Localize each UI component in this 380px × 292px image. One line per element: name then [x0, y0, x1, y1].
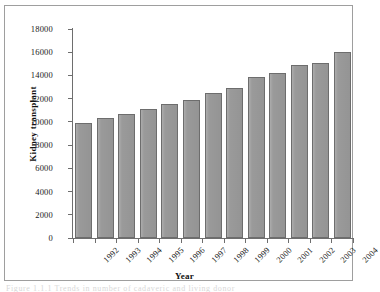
bar-2002 [291, 65, 308, 238]
x-axis-title: Year [5, 271, 364, 281]
x-axis-tick-mark [267, 239, 268, 243]
x-axis-tick-mark [159, 239, 160, 243]
y-axis-tick-label: 8000 [35, 140, 53, 150]
x-axis-tick-label: 2000 [274, 245, 294, 265]
bar-1994 [118, 114, 135, 238]
x-axis-tick-mark [116, 239, 117, 243]
y-axis-tick-label: 10000 [31, 117, 53, 127]
x-axis-tick-label: 2002 [317, 245, 337, 265]
bar-1997 [183, 100, 200, 238]
plot-area [73, 29, 353, 238]
y-axis-tick-label: 12000 [31, 94, 53, 104]
x-axis-tick-mark [245, 239, 246, 243]
x-axis-tick-label: 1999 [252, 245, 272, 265]
x-axis-tick-mark [202, 239, 203, 243]
x-axis-tick-label: 1993 [123, 245, 143, 265]
bar-1998 [205, 93, 222, 238]
bar-2003 [312, 63, 329, 238]
x-axis-tick-label: 1997 [209, 245, 229, 265]
x-axis-tick-mark [353, 239, 354, 243]
x-axis-tick-label: 1998 [231, 245, 251, 265]
bar-1996 [161, 104, 178, 238]
x-axis-tick-mark [331, 239, 332, 243]
y-axis-tick-label: 18000 [31, 24, 53, 34]
x-axis-tick-label: 1996 [188, 245, 208, 265]
bar-2004 [334, 52, 351, 238]
y-axis-tick-label: 4000 [35, 187, 53, 197]
bar-1993 [97, 118, 114, 238]
x-axis-tick-mark [224, 239, 225, 243]
bar-1992 [75, 123, 92, 238]
x-axis-tick-mark [181, 239, 182, 243]
x-axis-tick-label: 1992 [101, 245, 121, 265]
bar-1999 [226, 88, 243, 238]
y-axis-tick-label: 6000 [35, 163, 53, 173]
x-axis-tick-mark [95, 239, 96, 243]
y-axis-tick-label: 0 [49, 233, 53, 243]
x-axis-tick-mark [288, 239, 289, 243]
x-axis-tick-label: 2003 [338, 245, 358, 265]
bar-2001 [269, 73, 286, 238]
figure-frame: Kidney transplant 0200040006000800010000… [4, 5, 353, 281]
x-axis-tick-label: 2001 [295, 245, 315, 265]
y-axis-tick-label: 14000 [31, 70, 53, 80]
x-axis-tick-label: 1994 [145, 245, 165, 265]
bar-2000 [248, 77, 265, 238]
bar-1995 [140, 109, 157, 238]
x-axis-tick-mark [138, 239, 139, 243]
figure-caption-fragment: Figure 1.1.1 Trends in number of cadaver… [6, 284, 353, 292]
x-axis-line [72, 238, 354, 239]
y-axis-tick-label: 2000 [35, 210, 53, 220]
x-axis-tick-label: 2004 [360, 245, 380, 265]
x-axis-tick-mark [310, 239, 311, 243]
x-axis-tick-mark [73, 239, 74, 243]
y-axis-tick-label: 16000 [31, 47, 53, 57]
x-axis-tick-label: 1995 [166, 245, 186, 265]
